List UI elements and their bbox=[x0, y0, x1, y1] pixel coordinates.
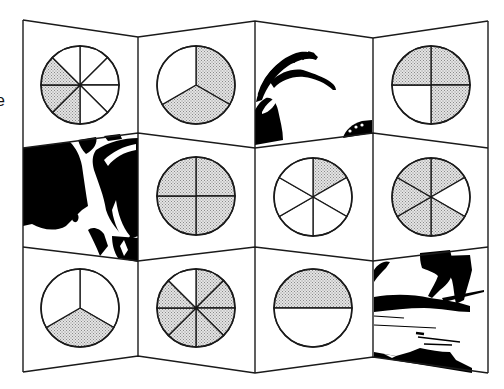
pie-sixths-5-shaded bbox=[392, 158, 470, 236]
pie-sector-shaded bbox=[274, 269, 352, 308]
pie-quarters-4-shaded bbox=[157, 157, 235, 235]
folding-screen-figure bbox=[0, 0, 504, 389]
ibex-legs-illustration bbox=[374, 250, 484, 373]
pie-eighths-7-shaded bbox=[157, 269, 235, 347]
pie-quarters-3-shaded bbox=[392, 46, 470, 124]
pie-thirds-2-shaded bbox=[157, 46, 235, 124]
ibex-horns-illustration bbox=[255, 52, 372, 145]
ibex-body-illustration bbox=[23, 134, 138, 262]
pie-sixths-1-shaded bbox=[274, 158, 352, 236]
pie-eighths-3-shaded bbox=[41, 46, 119, 124]
pie-halves-1-shaded bbox=[274, 269, 352, 347]
pie-sector-unshaded bbox=[274, 308, 352, 347]
pie-thirds-1-shaded bbox=[41, 269, 119, 347]
